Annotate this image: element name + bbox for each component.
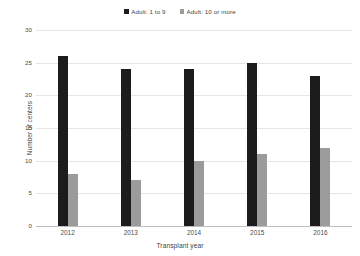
legend-swatch-dark (124, 9, 129, 14)
bar-2016-series-2[interactable] (320, 148, 330, 226)
bars-layer (36, 30, 352, 226)
legend-item-adult-10-or-more[interactable]: Adult: 10 or more (180, 8, 236, 15)
legend-swatch-grey (180, 9, 185, 14)
x-axis-tick-label: 2016 (313, 230, 327, 236)
y-axis-tick-label: 25 (6, 60, 32, 66)
x-axis-tick-label: 2012 (60, 230, 74, 236)
legend-label-adult-10-or-more: Adult: 10 or more (187, 8, 236, 15)
x-axis-tick-label: 2013 (124, 230, 138, 236)
y-axis-tick-label: 20 (6, 92, 32, 98)
legend-item-adult-1-to-9[interactable]: Adult: 1 to 9 (124, 8, 165, 15)
y-axis-tick-label: 0 (6, 223, 32, 229)
bar-2014-series-1[interactable] (184, 69, 194, 226)
bar-2016-series-1[interactable] (310, 76, 320, 226)
x-axis-line (36, 226, 352, 227)
y-axis-tick-label: 30 (6, 27, 32, 33)
x-axis-tick-label: 2015 (250, 230, 264, 236)
bar-2014-series-2[interactable] (194, 161, 204, 226)
chart-legend: Adult: 1 to 9 Adult: 10 or more (0, 8, 360, 15)
y-axis-tick-label: 10 (6, 158, 32, 164)
bar-2012-series-1[interactable] (58, 56, 68, 226)
bar-2013-series-2[interactable] (131, 180, 141, 226)
bar-2013-series-1[interactable] (121, 69, 131, 226)
bar-chart: Adult: 1 to 9 Adult: 10 or more Number o… (0, 0, 360, 256)
x-axis-tick-label: 2014 (187, 230, 201, 236)
x-axis-title: Transplant year (0, 242, 360, 249)
y-axis-tick-label: 15 (6, 125, 32, 131)
x-axis-ticks: 20122013201420152016 (36, 230, 352, 242)
y-axis-tick-label: 5 (6, 190, 32, 196)
bar-2012-series-2[interactable] (68, 174, 78, 226)
legend-label-adult-1-to-9: Adult: 1 to 9 (131, 8, 165, 15)
bar-2015-series-2[interactable] (257, 154, 267, 226)
bar-2015-series-1[interactable] (247, 63, 257, 226)
plot-area: 051015202530 (36, 30, 352, 226)
